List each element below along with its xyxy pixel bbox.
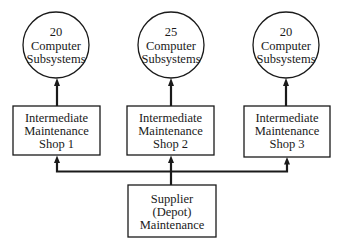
depot-label-line3: Maintenance bbox=[140, 218, 205, 232]
depot-label-line1: Supplier bbox=[151, 192, 194, 206]
subsystem-3-label-line2: Computer bbox=[261, 39, 312, 53]
arrowhead-to-shop3 bbox=[284, 157, 290, 165]
subsystem-2-label-line3: Subsystems bbox=[141, 52, 200, 66]
shop-3-label-line3: Shop 3 bbox=[269, 137, 304, 151]
arrowhead-to-subsystem2 bbox=[168, 78, 174, 86]
shop-1-label-line2: Maintenance bbox=[24, 124, 89, 138]
shop-1-label-line1: Intermediate bbox=[25, 111, 89, 125]
maintenance-diagram: 20 Computer Subsystems 25 Computer Subsy… bbox=[0, 0, 342, 247]
subsystem-3-label-line3: Subsystems bbox=[256, 52, 315, 66]
shop-2-label-line1: Intermediate bbox=[139, 111, 203, 125]
shop-node-3: Intermediate Maintenance Shop 3 bbox=[244, 106, 330, 157]
subsystem-2-label-line2: Computer bbox=[146, 39, 197, 53]
shop-3-label-line2: Maintenance bbox=[255, 124, 320, 138]
arrowhead-to-subsystem3 bbox=[283, 78, 289, 86]
arrowhead-to-shop1 bbox=[54, 156, 60, 164]
depot-node: Supplier (Depot) Maintenance bbox=[128, 185, 216, 237]
subsystem-1-label-line2: Computer bbox=[31, 39, 82, 53]
shop-2-label-line2: Maintenance bbox=[138, 124, 203, 138]
subsystem-node-1: 20 Computer Subsystems bbox=[23, 12, 89, 78]
shop-node-1: Intermediate Maintenance Shop 1 bbox=[13, 106, 100, 155]
shop-1-label-line3: Shop 1 bbox=[39, 137, 74, 151]
subsystem-node-2: 25 Computer Subsystems bbox=[138, 12, 204, 78]
arrowhead-to-shop2 bbox=[168, 156, 174, 164]
shop-node-2: Intermediate Maintenance Shop 2 bbox=[127, 106, 214, 155]
depot-label-line2: (Depot) bbox=[153, 205, 192, 219]
subsystem-1-label-line3: Subsystems bbox=[26, 52, 85, 66]
subsystem-node-3: 20 Computer Subsystems bbox=[253, 12, 319, 78]
subsystem-3-count: 20 bbox=[280, 25, 293, 39]
shop-3-label-line1: Intermediate bbox=[255, 111, 319, 125]
subsystem-1-count: 20 bbox=[50, 25, 63, 39]
arrowhead-to-subsystem1 bbox=[54, 78, 60, 86]
subsystem-2-count: 25 bbox=[165, 25, 178, 39]
shop-2-label-line3: Shop 2 bbox=[153, 137, 188, 151]
